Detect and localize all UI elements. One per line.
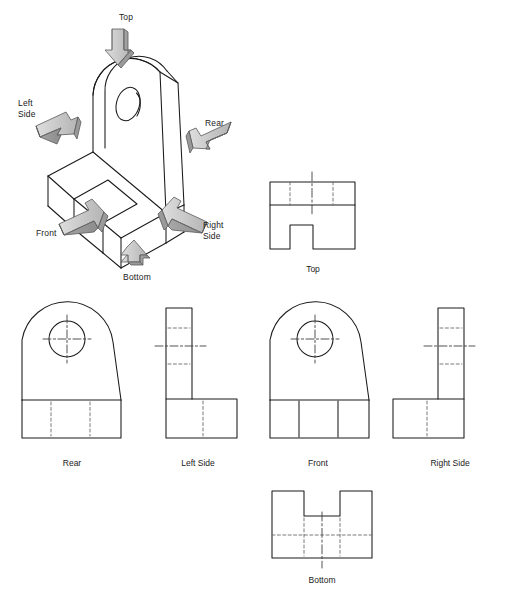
caption-left-side: Left Side — [181, 458, 215, 468]
tab-arc-top — [93, 59, 160, 95]
base-bottom-edge-notch-front — [103, 253, 121, 268]
view-left-side — [166, 308, 237, 438]
caption-bottom: Bottom — [309, 575, 336, 585]
front-view-tab-profile — [270, 302, 369, 400]
rear-view-base-outline — [22, 400, 121, 438]
tab-hole-ellipse — [112, 84, 143, 123]
front-view-base-outline — [270, 400, 369, 438]
iso-label-left-side: Left Side — [18, 98, 36, 119]
view-right-side-hidden — [427, 328, 462, 436]
view-front-centerlines — [291, 315, 339, 363]
view-rear-centerlines — [43, 315, 91, 363]
isometric-part — [48, 56, 184, 268]
direction-arrows — [36, 29, 231, 265]
arrow-front — [59, 199, 108, 235]
base-bottom-edge-far-right — [166, 232, 184, 243]
view-top — [270, 182, 355, 249]
tab-outer-left-profile — [93, 59, 166, 213]
iso-label-bottom: Bottom — [123, 272, 151, 283]
top-view-outline — [270, 182, 355, 249]
iso-label-right-side: Right Side — [203, 220, 224, 241]
arrow-bottom — [121, 240, 150, 265]
view-top-hidden — [290, 182, 333, 205]
base-top-edge-back-left — [48, 152, 93, 176]
view-rear — [22, 302, 121, 438]
arrow-left-side — [36, 112, 81, 144]
view-rear-hidden — [51, 402, 90, 436]
drawing-geometry — [0, 0, 517, 602]
left-side-outline — [166, 308, 237, 438]
drawing-sheet: Top Left Side Rear Front Right Side Bott… — [0, 0, 517, 602]
arrow-top — [105, 29, 134, 68]
view-front — [270, 302, 369, 438]
caption-top: Top — [306, 264, 320, 274]
view-left-side-hidden — [168, 328, 203, 436]
base-top-edge-left-front — [48, 176, 74, 199]
caption-front: Front — [308, 458, 328, 468]
iso-label-top: Top — [119, 12, 133, 23]
right-side-outline — [393, 308, 464, 438]
caption-rear: Rear — [63, 458, 81, 468]
view-right-side — [393, 308, 464, 438]
caption-right-side: Right Side — [430, 458, 469, 468]
iso-label-rear: Rear — [205, 118, 224, 129]
iso-label-front: Front — [36, 228, 57, 239]
rear-view-tab-profile — [22, 302, 121, 400]
tab-right-thickness-edge — [160, 72, 184, 205]
